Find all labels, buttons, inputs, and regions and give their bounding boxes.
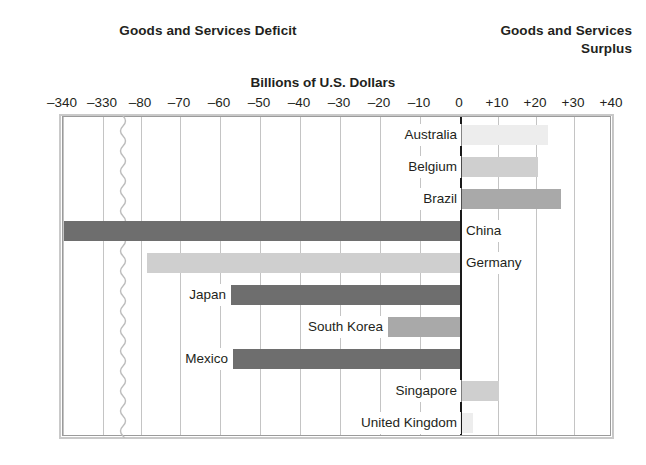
bar-category-label: China bbox=[462, 220, 505, 242]
plot-area: AustraliaBelgiumBrazilChinaGermanyJapanS… bbox=[62, 116, 611, 436]
deficit-title: Goods and Services Deficit bbox=[58, 22, 358, 40]
bar bbox=[462, 157, 538, 177]
surplus-title-line1: Goods and Services bbox=[500, 23, 632, 38]
chart-row: Japan bbox=[63, 279, 610, 311]
x-tick-label: –50 bbox=[248, 95, 271, 110]
bar-category-label: South Korea bbox=[304, 316, 387, 338]
x-tick-label: +40 bbox=[600, 95, 623, 110]
bar-category-label: Australia bbox=[400, 124, 461, 146]
bar-category-label: Japan bbox=[185, 284, 230, 306]
chart-row: Australia bbox=[63, 119, 610, 151]
chart-row: Brazil bbox=[63, 183, 610, 215]
x-axis-tick-labels: –340–330–80–70–60–50–40–30–20–100+10+20+… bbox=[0, 95, 646, 115]
x-tick-label: –70 bbox=[168, 95, 191, 110]
chart-row: Belgium bbox=[63, 151, 610, 183]
x-tick-label: –40 bbox=[288, 95, 311, 110]
bar-category-label: Belgium bbox=[404, 156, 461, 178]
x-tick-label: –10 bbox=[408, 95, 431, 110]
chart-root: Goods and Services Deficit Goods and Ser… bbox=[0, 0, 646, 465]
x-tick-label: +30 bbox=[562, 95, 585, 110]
x-tick-label: –20 bbox=[368, 95, 391, 110]
bar-category-label: Mexico bbox=[181, 348, 232, 370]
x-tick-label: +20 bbox=[524, 95, 547, 110]
bar-category-label: United Kingdom bbox=[357, 412, 461, 434]
x-tick-label: –80 bbox=[129, 95, 152, 110]
x-tick-label: –340 bbox=[47, 95, 77, 110]
bar bbox=[462, 381, 499, 401]
bar bbox=[147, 253, 460, 273]
bar bbox=[231, 285, 460, 305]
x-tick-label: –60 bbox=[208, 95, 231, 110]
bar-category-label: Singapore bbox=[391, 380, 461, 402]
chart-row: Germany bbox=[63, 247, 610, 279]
bar bbox=[462, 189, 561, 209]
surplus-title: Goods and Services Surplus bbox=[402, 22, 632, 58]
bar bbox=[64, 221, 460, 241]
x-tick-label: –330 bbox=[87, 95, 117, 110]
bar bbox=[388, 317, 460, 337]
x-tick-label: 0 bbox=[455, 95, 463, 110]
bar bbox=[462, 125, 548, 145]
bar-category-label: Germany bbox=[462, 252, 526, 274]
chart-row: Singapore bbox=[63, 375, 610, 407]
bar-category-label: Brazil bbox=[419, 188, 461, 210]
chart-row: South Korea bbox=[63, 311, 610, 343]
bar bbox=[233, 349, 460, 369]
chart-row: Mexico bbox=[63, 343, 610, 375]
gridline bbox=[612, 117, 613, 435]
chart-row: United Kingdom bbox=[63, 407, 610, 439]
bar bbox=[462, 413, 473, 433]
x-tick-label: –30 bbox=[328, 95, 351, 110]
chart-row: China bbox=[63, 215, 610, 247]
axis-title: Billions of U.S. Dollars bbox=[0, 75, 646, 90]
x-tick-label: +10 bbox=[486, 95, 509, 110]
surplus-title-line2: Surplus bbox=[402, 40, 632, 58]
